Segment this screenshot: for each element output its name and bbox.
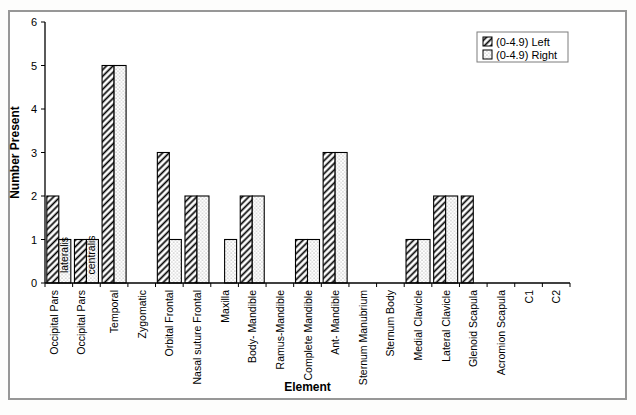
y-tick-label: 2 — [31, 190, 37, 202]
y-tick-label: 6 — [31, 16, 37, 28]
bar-right — [335, 153, 347, 284]
x-category-label: C2 — [550, 290, 562, 304]
legend-label-left: (0-4.9) Left — [496, 36, 550, 48]
bar-left — [185, 196, 197, 283]
x-category-label: Complete Mandible — [302, 290, 314, 381]
bar-left — [296, 240, 308, 284]
bar-left — [157, 153, 169, 284]
figure: 0123456Occipital ParslateralisOccipital … — [0, 0, 636, 415]
bar-left — [323, 153, 335, 284]
bar-right — [446, 196, 458, 283]
x-category-label: Maxilla — [219, 290, 231, 323]
bar-right — [418, 240, 430, 284]
y-tick-label: 4 — [31, 103, 37, 115]
y-axis-title: Number Present — [8, 106, 22, 199]
x-category-label: Zygomatic — [136, 290, 148, 338]
legend-label-right: (0-4.9) Right — [496, 49, 557, 61]
x-category-label: Glenoid Scapula — [467, 290, 479, 367]
chart-root: 0123456Occipital ParslateralisOccipital … — [8, 11, 626, 399]
x-category-label: Orbital Frontal — [163, 290, 175, 357]
bar-left — [102, 66, 114, 284]
x-category-label: Temporal — [108, 290, 120, 333]
legend: (0-4.9) Left(0-4.9) Right — [477, 32, 568, 62]
x-category-label: Nasal suture Frontal — [191, 290, 203, 385]
bar-right — [252, 196, 264, 283]
x-category-label: Ant- Mandible — [329, 290, 341, 355]
bar-right — [225, 240, 237, 284]
bar-right — [197, 196, 209, 283]
x-category-label: Body- Mandible — [246, 290, 258, 363]
x-category-label: Ramus-Mandible — [274, 290, 286, 370]
legend-swatch-right — [483, 50, 492, 59]
legend-swatch-left — [483, 37, 492, 46]
y-tick-label: 1 — [31, 234, 37, 246]
x-category-label: Occipital Pars — [48, 290, 60, 355]
x-axis-title: Element — [284, 380, 331, 394]
bar-left — [240, 196, 252, 283]
bar-left — [434, 196, 446, 283]
x-category-label: Acromion Scapula — [495, 290, 507, 375]
x-category-label: centralis — [85, 235, 97, 274]
x-category-label: Occipital Pars — [75, 290, 87, 355]
bar-right — [169, 240, 181, 284]
y-tick-label: 0 — [31, 277, 37, 289]
bar-left — [461, 196, 473, 283]
bar-right — [308, 240, 320, 284]
bar-right — [114, 66, 126, 284]
y-tick-label: 5 — [31, 60, 37, 72]
x-category-label: Lateral Clavicle — [440, 290, 452, 362]
chart-svg: 0123456Occipital ParslateralisOccipital … — [0, 0, 636, 415]
x-category-label: Medial Clavicle — [412, 290, 424, 361]
x-category-label: C1 — [523, 290, 535, 304]
x-category-label: lateralis — [58, 237, 70, 273]
x-category-label: Sternum Manubrium — [357, 290, 369, 385]
y-tick-label: 3 — [31, 147, 37, 159]
x-category-label: Sternum Body — [384, 289, 396, 356]
bar-left — [406, 240, 418, 284]
